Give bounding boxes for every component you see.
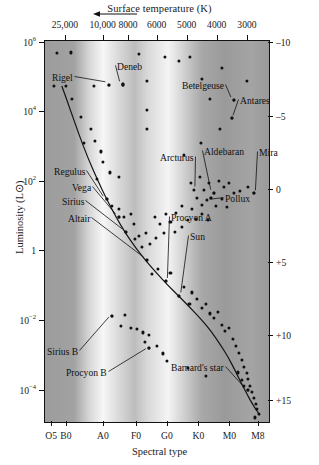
star-label-arcturus: Arcturus [160, 152, 194, 163]
star-label-betelgeuse: Betelgeuse [182, 80, 224, 91]
right-axis-label-1: –5 [276, 110, 286, 121]
top-tick-label-1: 10,000 [89, 19, 115, 30]
bottom-tick-0 [51, 421, 52, 426]
top-tick-1 [103, 35, 104, 40]
left-tick-5 [39, 390, 44, 391]
left-tick-4 [39, 320, 44, 321]
right-axis-label-4: +10 [276, 330, 291, 341]
bottom-axis-label-2: A0 [97, 430, 109, 441]
bottom-axis-label-0: O5 [45, 430, 57, 441]
bottom-axis-label-7: M8 [251, 430, 264, 441]
bottom-tick-3 [136, 421, 137, 426]
bottom-tick-4 [167, 421, 168, 426]
top-tick-2 [128, 35, 129, 40]
top-tick-label-0: 25,000 [52, 19, 78, 30]
left-tick-2 [39, 181, 44, 182]
star-label-barnard-s-star: Barnard's star [171, 362, 224, 373]
top-tick-label-6: 3000 [237, 19, 256, 30]
star-label-procyon-a: Procyon A [171, 212, 212, 223]
right-tick-4 [268, 335, 273, 336]
bottom-axis-label-4: G0 [161, 430, 173, 441]
bottom-tick-7 [258, 421, 259, 426]
left-tick-3 [39, 250, 44, 251]
star-label-pollux: Pollux [225, 193, 250, 204]
star-label-sirius: Sirius [62, 196, 84, 207]
star-label-antares: Antares [240, 95, 270, 106]
bottom-tick-1 [66, 421, 67, 426]
right-tick-3 [268, 262, 273, 263]
bottom-axis-label-3: F0 [131, 430, 141, 441]
top-tick-5 [217, 35, 218, 40]
bottom-axis-label-5: K0 [192, 430, 204, 441]
top-axis-title: Surface temperature (K) [0, 4, 319, 15]
bottom-tick-2 [103, 421, 104, 426]
star-label-mira: Mira [259, 147, 278, 158]
right-tick-0 [268, 42, 273, 43]
star-label-rigel: Rigel [52, 72, 73, 83]
left-axis-title: Luminosity (L⊙) [15, 147, 26, 287]
star-label-sirius-b: Sirius B [47, 346, 78, 357]
star-label-sun: Sun [190, 231, 205, 242]
top-tick-6 [247, 35, 248, 40]
left-axis-label-4: 10−2 [19, 315, 36, 326]
left-axis-label-0: 106 [23, 37, 36, 48]
bottom-axis-label-6: M0 [223, 430, 236, 441]
star-label-regulus: Regulus [54, 166, 85, 177]
left-tick-1 [39, 111, 44, 112]
star-label-deneb: Deneb [117, 61, 142, 72]
right-axis-label-2: 0 [276, 183, 281, 194]
star-label-altair: Altair [68, 213, 90, 224]
right-tick-2 [268, 189, 273, 190]
bottom-axis-title: Spectral type [0, 447, 319, 458]
left-tick-0 [39, 42, 44, 43]
hr-diagram-figure: Surface temperature (K) 25,00010,0008000… [0, 0, 319, 465]
left-axis-label-5: 10−4 [19, 385, 36, 396]
bottom-tick-5 [198, 421, 199, 426]
top-tick-label-4: 5000 [177, 19, 196, 30]
plot-area [44, 40, 270, 423]
top-tick-3 [157, 35, 158, 40]
bottom-tick-6 [229, 421, 230, 426]
main-sequence-path [62, 86, 260, 415]
right-tick-1 [268, 116, 273, 117]
top-tick-0 [65, 35, 66, 40]
top-tick-label-2: 8000 [118, 19, 137, 30]
right-axis-label-3: +5 [276, 257, 286, 268]
temperature-direction-arrow-icon [93, 10, 137, 18]
top-tick-label-3: 6000 [147, 19, 166, 30]
top-tick-4 [187, 35, 188, 40]
right-axis-label-0: –10 [276, 37, 290, 48]
top-tick-label-5: 4000 [207, 19, 226, 30]
left-axis-label-3: 1 [31, 244, 36, 255]
right-axis-label-5: +15 [276, 395, 291, 406]
star-label-aldebaran: Aldebaran [204, 146, 244, 157]
star-label-vega: Vega [72, 182, 91, 193]
star-label-procyon-b: Procyon B [66, 367, 107, 378]
bottom-axis-label-1: B0 [60, 430, 71, 441]
right-tick-5 [268, 400, 273, 401]
left-axis-label-1: 104 [23, 105, 36, 116]
